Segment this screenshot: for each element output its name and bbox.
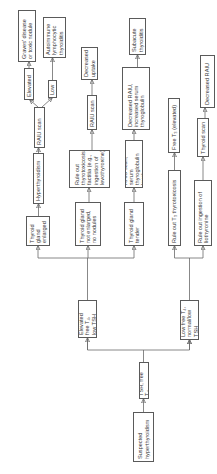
node-label: Decreased RAIU, increased serum thyroglo… bbox=[127, 83, 146, 127]
flowchart-canvas: Suspected hyperthyroidism TSH, free T₄ E… bbox=[0, 0, 217, 474]
node-rule-out-thyrotoxicosis-factitia: Rule out thyrotoxicosis factitia (e.g., … bbox=[69, 150, 110, 188]
node-rule-out-t3-thyrotoxicosis: Rule out T₃ thyrotoxicosis bbox=[168, 170, 181, 246]
node-label: TSH, free T₄ bbox=[139, 365, 149, 396]
node-label: Subacute thyroiditis bbox=[131, 28, 143, 52]
node-thyroid-gland-enlarged: Thyroid gland enlarged bbox=[26, 216, 50, 246]
node-autoimmune-thyroiditis: Autoimmune lymphocytic thyroiditis bbox=[43, 17, 66, 58]
node-raiu-scan-thyroglobulin: RAIU scan, serum thyroglobulin level bbox=[125, 140, 143, 188]
node-thyroid-gland-tender: Thyroid gland tender bbox=[124, 202, 144, 246]
node-tsh-free-t4: TSH, free T₄ bbox=[139, 362, 149, 399]
node-label: Low bbox=[49, 85, 55, 95]
node-label: Decreased RAIU bbox=[204, 63, 210, 105]
node-label: Thyroid gland enlarged bbox=[29, 221, 48, 243]
node-free-t3-elevated: Free T₃ (elevated) bbox=[168, 98, 180, 153]
node-decreased-raiu-increased-thyroglobulin: Decreased RAIU, increased serum thyroglo… bbox=[122, 67, 150, 130]
node-label: Hyperthyroidism bbox=[35, 161, 41, 201]
node-label: Rule out T₃ thyrotoxicosis bbox=[171, 180, 177, 243]
node-label: Autoimmune lymphocytic thyroiditis bbox=[45, 24, 64, 55]
node-label: Decreased uptake bbox=[83, 50, 95, 77]
node-label: Graves’ disease or toxic nodule bbox=[21, 19, 33, 59]
node-elevated: Elevated bbox=[24, 68, 34, 100]
node-subacute-thyroiditis: Subacute thyroiditis bbox=[129, 18, 146, 55]
node-label: RAIU scan, serum thyroglobulin level bbox=[125, 143, 143, 185]
node-low: Low bbox=[48, 80, 57, 98]
node-label: RAIU scan bbox=[89, 100, 95, 127]
node-graves-disease: Graves’ disease or toxic nodule bbox=[18, 10, 36, 62]
node-label: Thyroid scan bbox=[200, 122, 206, 154]
node-thyroid-scan: Thyroid scan bbox=[197, 118, 209, 157]
node-label: Suspected hyperthyroidism bbox=[137, 420, 149, 459]
node-low-free-t4: Low free T₄, normal/low TSH bbox=[180, 300, 199, 340]
node-label: Thyroid gland tender bbox=[128, 209, 140, 243]
node-hyperthyroidism: Hyperthyroidism bbox=[33, 153, 44, 204]
node-label: Thyroid gland not enlarged, no nodules bbox=[79, 209, 98, 243]
node-label: RAIU scan bbox=[36, 118, 42, 145]
node-decreased-raiu: Decreased RAIU bbox=[200, 55, 215, 108]
node-label: Free T₃ (elevated) bbox=[171, 105, 177, 150]
node-elevated-free-t4: Elevated free T₄, low TSH bbox=[78, 300, 97, 338]
node-label: Rule out ingestion of liothyronine bbox=[197, 192, 209, 243]
node-decreased-uptake: Decreased uptake bbox=[81, 47, 98, 80]
node-raiu-scan-1: RAIU scan bbox=[34, 107, 45, 148]
node-raiu-scan-2: RAIU scan bbox=[87, 95, 97, 130]
node-rule-out-liothyronine: Rule out ingestion of liothyronine bbox=[194, 180, 212, 246]
node-suspected-hyperthyroidism: Suspected hyperthyroidism bbox=[133, 412, 154, 462]
node-label: Elevated bbox=[26, 75, 32, 97]
node-label: Rule out thyrotoxicosis factitia (e.g., … bbox=[74, 150, 105, 185]
node-label: Low free T₄, normal/low TSH bbox=[180, 303, 199, 337]
node-thyroid-gland-not-enlarged: Thyroid gland not enlarged, no nodules bbox=[75, 202, 101, 246]
node-label: Elevated free T₄, low TSH bbox=[78, 303, 97, 335]
